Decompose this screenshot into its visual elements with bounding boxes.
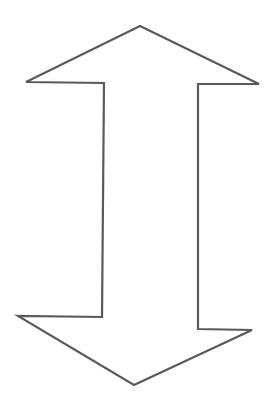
diagram-canvas <box>0 0 269 407</box>
double-arrow-icon <box>18 26 259 385</box>
